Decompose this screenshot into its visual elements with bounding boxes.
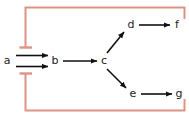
node-label-c: c [101, 54, 107, 67]
network-diagram: a b c d f e g [0, 0, 189, 118]
node-label-g: g [176, 87, 183, 100]
node-label-d: d [128, 18, 135, 31]
edge-c-to-e [107, 69, 126, 88]
feedback-edge-f-to-ab-upper [20, 8, 185, 48]
diagram-canvas: a b c d f e g [0, 0, 189, 118]
feedback-edge-g-to-ab-lower [20, 74, 185, 111]
node-label-a: a [4, 54, 11, 67]
inhibition-path-bottom [26, 74, 185, 111]
edge-c-to-d [107, 32, 124, 53]
node-label-e: e [130, 87, 137, 100]
node-label-f: f [175, 18, 180, 31]
node-label-b: b [52, 54, 59, 67]
inhibition-path-top [26, 8, 185, 48]
